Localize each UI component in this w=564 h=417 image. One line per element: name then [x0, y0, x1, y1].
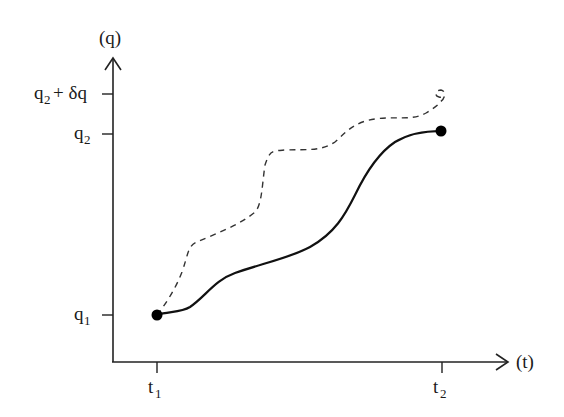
trajectory-diagram: (q) (t) q 2 + δq q 2 q 1 t 1 t 2: [0, 0, 564, 417]
x-axis-label: (t): [516, 351, 534, 373]
svg-text:+ δq: + δq: [53, 82, 87, 103]
diagram-svg: (q) (t) q 2 + δq q 2 q 1 t 1 t 2: [0, 0, 564, 417]
label-t2: t 2: [433, 376, 447, 401]
svg-text:t: t: [148, 376, 154, 397]
svg-text:2: 2: [84, 132, 91, 147]
svg-text:1: 1: [84, 313, 91, 328]
svg-text:q: q: [74, 122, 84, 143]
x-axis: [112, 354, 508, 373]
y-axis: [102, 58, 121, 362]
svg-text:1: 1: [155, 386, 162, 401]
label-t1: t 1: [148, 376, 162, 401]
svg-text:2: 2: [44, 92, 51, 107]
start-point: [152, 310, 163, 321]
label-q1: q 1: [74, 303, 91, 328]
svg-text:t: t: [433, 376, 439, 397]
label-q2: q 2: [74, 122, 91, 147]
svg-text:q: q: [74, 303, 84, 324]
varied-path-dashed: [157, 90, 445, 315]
svg-text:2: 2: [440, 386, 447, 401]
end-point: [436, 126, 447, 137]
y-axis-label: (q): [99, 27, 121, 49]
label-q2-plus-dq: q 2 + δq: [34, 82, 87, 107]
actual-path-solid: [157, 131, 441, 315]
svg-text:q: q: [34, 82, 44, 103]
